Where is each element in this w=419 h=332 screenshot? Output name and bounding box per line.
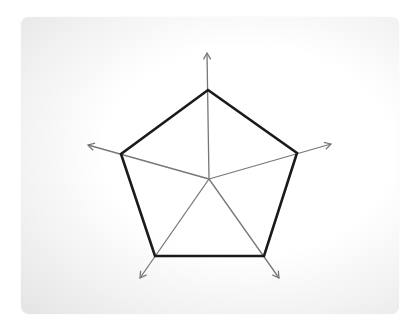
radar-diagram bbox=[0, 0, 419, 332]
axis-bottom-right-arrow bbox=[209, 179, 279, 278]
axis-right-arrow bbox=[209, 144, 331, 179]
axis-left-arrow bbox=[88, 145, 209, 179]
axis-bottom-left-arrow bbox=[140, 179, 209, 278]
axis-top-arrow bbox=[207, 53, 209, 179]
